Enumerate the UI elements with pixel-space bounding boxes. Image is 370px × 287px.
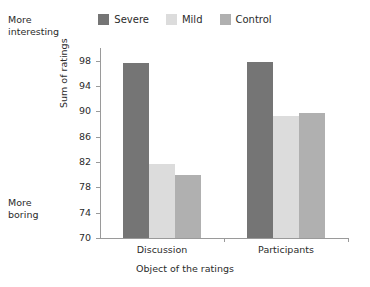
y-tick-mark: 98 <box>96 61 100 62</box>
x-axis-title: Object of the ratings <box>0 263 370 275</box>
bar-participants-mild <box>273 116 299 238</box>
plot-area: 7074788286909498 DiscussionParticipants <box>100 48 348 238</box>
y-axis-title: Sum of ratings <box>58 38 70 108</box>
legend-swatch-icon <box>98 14 109 25</box>
y-tick-mark: 74 <box>96 213 100 214</box>
legend-item-label: Control <box>236 14 272 25</box>
y-tick-mark: 78 <box>96 187 100 188</box>
annotation-more-boring-line1: More <box>8 197 70 209</box>
annotation-more-boring: More boring <box>8 197 70 221</box>
y-tick-label: 74 <box>79 207 91 218</box>
bar-discussion-control <box>175 175 201 238</box>
bar-participants-severe <box>247 62 273 238</box>
y-tick-mark: 70 <box>96 238 100 239</box>
legend-item-severe[interactable]: Severe <box>98 14 149 25</box>
annotation-more-interesting-line1: More <box>8 14 70 26</box>
x-category-label-participants: Participants <box>258 244 314 256</box>
bar-discussion-mild <box>149 164 175 238</box>
y-axis-line <box>100 48 101 238</box>
bar-chart-figure: SevereMildControl More interesting More … <box>0 0 370 287</box>
legend-swatch-icon <box>166 14 177 25</box>
y-tick-mark: 94 <box>96 86 100 87</box>
legend-item-control[interactable]: Control <box>220 14 272 25</box>
annotation-more-interesting: More interesting <box>8 14 70 38</box>
legend-swatch-icon <box>220 14 231 25</box>
annotation-more-boring-line2: boring <box>8 209 70 221</box>
y-tick-label: 70 <box>79 232 91 243</box>
x-tick-mark <box>348 238 349 242</box>
y-tick-mark: 86 <box>96 137 100 138</box>
x-category-label-discussion: Discussion <box>137 244 188 256</box>
x-tick-mark <box>224 238 225 242</box>
legend-item-label: Severe <box>114 14 149 25</box>
y-tick-mark: 82 <box>96 162 100 163</box>
y-tick-mark: 90 <box>96 111 100 112</box>
y-tick-label: 98 <box>79 55 91 66</box>
y-tick-label: 78 <box>79 181 91 192</box>
legend-item-label: Mild <box>182 14 203 25</box>
y-tick-label: 94 <box>79 80 91 91</box>
bar-participants-control <box>299 113 325 238</box>
y-tick-label: 86 <box>79 131 91 142</box>
bar-discussion-severe <box>123 63 149 238</box>
annotation-more-interesting-line2: interesting <box>8 26 70 38</box>
y-tick-label: 90 <box>79 105 91 116</box>
y-tick-label: 82 <box>79 156 91 167</box>
legend-item-mild[interactable]: Mild <box>166 14 203 25</box>
